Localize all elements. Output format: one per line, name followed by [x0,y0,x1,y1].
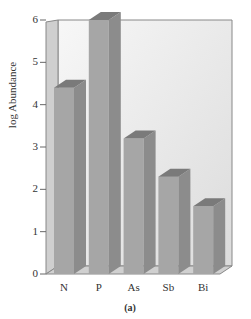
x-category-label: Bi [188,281,218,293]
x-category-label: As [119,281,149,293]
bar-side-as [144,131,156,274]
y-tick-label: 0 [26,267,38,279]
bar-front-p [89,20,109,274]
figure-caption: (a) [115,302,145,313]
bar-side-bi [213,198,225,274]
bar-side-n [74,80,86,274]
bar-side-sb [178,169,190,274]
y-axis-label: log Abundance [2,20,22,170]
y-tick-label: 5 [26,55,38,67]
bar-chart: log Abundance 0123456 NPAsSbBi (a) [0,0,251,319]
y-tick-label: 6 [26,13,38,25]
bar-front-as [124,139,144,274]
bar-front-bi [193,206,213,274]
y-axis-title: log Abundance [6,62,18,128]
x-category-label: N [49,281,79,293]
y-tick-label: 1 [26,225,38,237]
x-category-label: Sb [153,281,183,293]
bar-front-n [54,88,74,274]
x-category-label: P [84,281,114,293]
y-tick-label: 3 [26,140,38,152]
y-tick-label: 2 [26,182,38,194]
y-tick-label: 4 [26,98,38,110]
bar-front-sb [158,177,178,274]
bar-side-p [109,12,121,274]
